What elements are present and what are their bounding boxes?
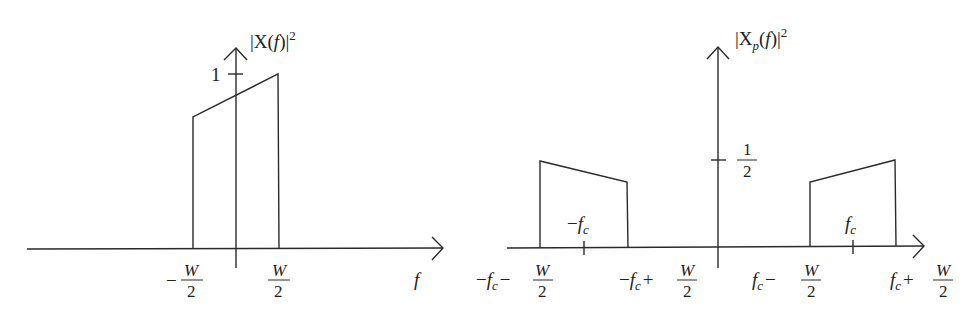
right-label-fc-plus-w2: fc+ W 2 <box>890 261 953 301</box>
left-tick-one-label: 1 <box>211 64 221 85</box>
left-tick-neg-w2-label: − W 2 <box>166 261 203 301</box>
frac-den: 2 <box>683 282 692 301</box>
frac-num: W <box>184 261 200 280</box>
left-x-label: f <box>414 269 422 290</box>
right-label-neg-fc-plus-w2: −fc+ W 2 <box>619 261 697 301</box>
minus-sign: − <box>166 270 177 291</box>
frac-den: 2 <box>187 282 196 301</box>
expr: −fc− <box>476 269 511 293</box>
left-tick-pos-w2-label: W 2 <box>268 261 290 301</box>
expr: −fc+ <box>619 269 654 293</box>
left-plot: |X(f)|2 1 − W 2 W 2 f <box>27 28 443 301</box>
right-label-neg-fc-minus-w2: −fc− W 2 <box>476 261 553 301</box>
frac-num: W <box>535 261 551 280</box>
frac-num: W <box>272 261 288 280</box>
right-y-label: |Xp(f)|2 <box>735 25 787 53</box>
diagram-canvas: |X(f)|2 1 − W 2 W 2 f |Xp(f)|2 1 2 <box>0 0 968 321</box>
frac-num: 1 <box>743 140 752 159</box>
frac-num: W <box>680 261 696 280</box>
expr: fc+ <box>890 269 914 293</box>
frac-den: 2 <box>939 282 948 301</box>
expr: fc− <box>752 269 776 293</box>
frac-den: 2 <box>743 162 752 181</box>
right-x-axis <box>507 246 924 248</box>
right-tick-half-label: 1 2 <box>737 140 757 181</box>
right-label-fc-minus-w2: fc− W 2 <box>752 261 821 301</box>
left-y-label: |X(f)|2 <box>250 28 296 53</box>
frac-num: W <box>804 261 820 280</box>
right-plot: |Xp(f)|2 1 2 −fc fc −fc− W 2 −fc+ W 2 fc… <box>476 25 953 301</box>
right-tick-pos-fc-label: fc <box>845 213 856 237</box>
frac-den: 2 <box>274 282 283 301</box>
frac-den: 2 <box>538 282 547 301</box>
frac-num: W <box>936 261 952 280</box>
frac-den: 2 <box>807 282 816 301</box>
left-x-axis <box>27 248 443 249</box>
right-tick-neg-fc-label: −fc <box>567 213 589 237</box>
